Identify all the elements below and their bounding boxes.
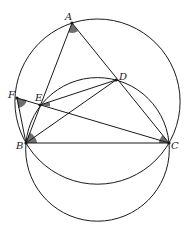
label-f: F [7,89,16,100]
label-d: D [118,71,127,82]
point-f [15,96,18,99]
point-b [24,141,27,144]
segment-bd [26,80,116,143]
point-e [38,103,41,106]
geometry-diagram: A B C D E F [0,0,189,242]
label-e: E [34,92,43,103]
segment-ab [26,23,72,143]
point-d [114,78,117,81]
circle-bedc [26,78,170,222]
segment-ac [72,23,169,143]
label-b: B [15,140,23,151]
label-a: A [64,11,72,22]
label-c: C [171,140,179,151]
segment-ed [40,80,116,105]
